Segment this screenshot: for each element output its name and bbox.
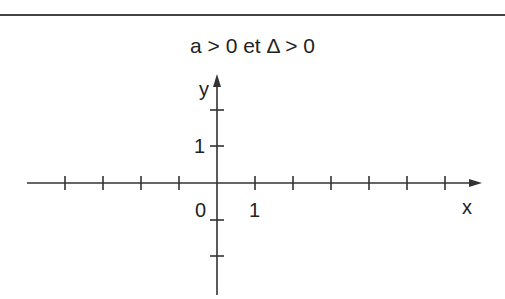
x-axis-arrow-icon — [469, 179, 482, 187]
x-axis-label: x — [462, 197, 472, 217]
origin-label: 0 — [195, 200, 206, 220]
y-unit-label: 1 — [194, 136, 205, 156]
y-axis-label: y — [199, 79, 209, 99]
x-unit-label: 1 — [249, 200, 260, 220]
coordinate-axes — [0, 0, 505, 299]
y-axis-arrow-icon — [213, 74, 221, 87]
